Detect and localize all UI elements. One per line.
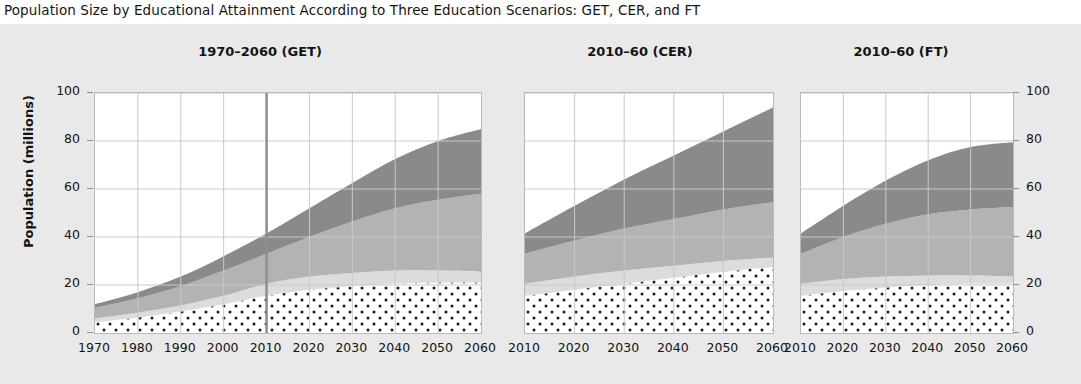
x-tick-label: 1990 — [158, 340, 202, 355]
y-tick-mark-left — [87, 188, 93, 189]
x-tick-label: 2010 — [502, 340, 546, 355]
y-tick-label-left: 100 — [32, 83, 80, 98]
x-tick-label: 2060 — [458, 340, 502, 355]
y-tick-mark-right — [1013, 140, 1019, 141]
panel-get-title: 1970–2060 (GET) — [40, 44, 480, 59]
panel-cer-title: 2010–60 (CER) — [500, 44, 780, 59]
figure-title: Population Size by Educational Attainmen… — [4, 2, 700, 18]
plot-area-cer — [524, 92, 774, 334]
x-tick-label: 2060 — [990, 340, 1034, 355]
y-tick-label-right: 40 — [1026, 227, 1074, 242]
x-tick-label: 2020 — [820, 340, 864, 355]
y-tick-mark-left — [87, 92, 93, 93]
y-tick-label-right: 80 — [1026, 131, 1074, 146]
x-tick-label: 2040 — [905, 340, 949, 355]
x-tick-label: 2040 — [372, 340, 416, 355]
x-tick-label: 2020 — [552, 340, 596, 355]
x-tick-label: 1980 — [115, 340, 159, 355]
y-tick-mark-right — [1013, 92, 1019, 93]
figure-root: Population Size by Educational Attainmen… — [0, 0, 1081, 384]
y-tick-mark-left — [87, 236, 93, 237]
x-tick-label: 1970 — [72, 340, 116, 355]
y-tick-label-left: 80 — [32, 131, 80, 146]
panel-ft-title: 2010–60 (FT) — [790, 44, 1012, 59]
panel-get: 1970–2060 (GET) Population (millions) 19… — [0, 24, 500, 384]
y-tick-label-right: 100 — [1026, 83, 1074, 98]
panel-board: 1970–2060 (GET) Population (millions) 19… — [0, 24, 1081, 384]
y-tick-label-right: 0 — [1026, 323, 1074, 338]
y-tick-mark-left — [87, 140, 93, 141]
panel-ft: 2010–60 (FT) 201020202030204020502060020… — [790, 24, 1081, 384]
x-tick-label: 2050 — [415, 340, 459, 355]
y-tick-mark-right — [1013, 284, 1019, 285]
plot-area-get — [94, 92, 482, 334]
y-tick-mark-right — [1013, 332, 1019, 333]
x-tick-label: 2030 — [601, 340, 645, 355]
x-tick-label: 2010 — [778, 340, 822, 355]
y-tick-mark-right — [1013, 188, 1019, 189]
y-tick-mark-left — [87, 332, 93, 333]
x-tick-label: 2050 — [700, 340, 744, 355]
y-tick-mark-left — [87, 284, 93, 285]
x-tick-label: 2040 — [651, 340, 695, 355]
x-tick-label: 2010 — [244, 340, 288, 355]
x-tick-label: 2030 — [329, 340, 373, 355]
panel-cer: 2010–60 (CER) 201020202030204020502060 — [500, 24, 790, 384]
y-tick-label-left: 0 — [32, 323, 80, 338]
y-tick-mark-right — [1013, 236, 1019, 237]
x-tick-label: 2050 — [948, 340, 992, 355]
y-tick-label-left: 60 — [32, 179, 80, 194]
y-tick-label-right: 60 — [1026, 179, 1074, 194]
area-chart-svg — [95, 93, 481, 333]
y-tick-label-left: 20 — [32, 275, 80, 290]
x-tick-label: 2030 — [863, 340, 907, 355]
y-tick-label-left: 40 — [32, 227, 80, 242]
x-tick-label: 2020 — [286, 340, 330, 355]
y-tick-label-right: 20 — [1026, 275, 1074, 290]
plot-area-ft — [800, 92, 1014, 334]
area-chart-svg — [801, 93, 1013, 333]
area-chart-svg — [525, 93, 773, 333]
x-tick-label: 2000 — [201, 340, 245, 355]
